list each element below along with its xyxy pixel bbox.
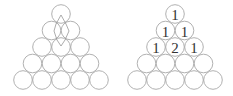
circle-cell [80, 54, 99, 73]
circle-cell [42, 21, 61, 40]
circle-cell [33, 71, 52, 90]
circle-cell [137, 54, 156, 73]
circle-cell [52, 5, 71, 24]
circle-cell [42, 54, 61, 73]
circle-cell [61, 21, 80, 40]
right-triangle: 111121 [128, 5, 223, 90]
path-arrow [61, 15, 69, 46]
circle-cell [147, 71, 166, 90]
circle-cell [14, 71, 33, 90]
circle-cell [194, 54, 213, 73]
cell-label: 1 [190, 40, 198, 56]
cell-label: 1 [181, 24, 189, 40]
cell-label: 1 [162, 24, 170, 40]
pascal-triangle-figure: 111121 [0, 0, 233, 96]
circle-cell [166, 71, 185, 90]
circle-cell [156, 54, 175, 73]
circle-cell [175, 54, 194, 73]
circle-cell [61, 54, 80, 73]
circle-cell [23, 54, 42, 73]
circle-cell [204, 71, 223, 90]
circle-cell [71, 38, 90, 57]
cell-label: 1 [152, 40, 160, 56]
circle-cell [185, 71, 204, 90]
circle-cell [71, 71, 90, 90]
cell-label: 1 [171, 7, 179, 23]
circle-cell [52, 38, 71, 57]
left-triangle [14, 5, 109, 90]
cell-label: 2 [171, 40, 179, 56]
circle-cell [90, 71, 109, 90]
circle-cell [128, 71, 147, 90]
path-arrow [54, 15, 61, 46]
circle-cell [33, 38, 52, 57]
circle-cell [52, 71, 71, 90]
